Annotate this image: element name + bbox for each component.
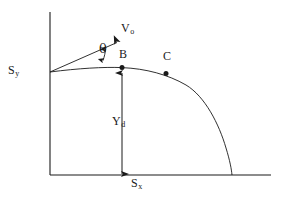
drop-height-label-base: Y <box>112 114 121 128</box>
initial-velocity-label-subscript: o <box>130 27 135 36</box>
point-label-b: B <box>119 48 127 60</box>
initial-velocity-label: Vo <box>121 22 134 34</box>
projectile-diagram: Sy Sx Vo θ B C Yd <box>0 0 284 200</box>
y-axis-label-base: S <box>8 63 15 77</box>
initial-velocity-label-base: V <box>121 21 130 35</box>
trajectory-curve <box>50 67 232 175</box>
y-axis-label-subscript: y <box>15 69 20 78</box>
drop-height-label: Yd <box>112 115 125 127</box>
diagram-canvas <box>0 0 284 200</box>
point-marker-b <box>120 65 125 70</box>
point-label-c: C <box>163 50 171 62</box>
y-axis-label: Sy <box>8 64 19 76</box>
x-axis-label-subscript: x <box>138 182 143 191</box>
x-axis-label: Sx <box>131 177 142 189</box>
angle-theta-label: θ <box>99 42 107 55</box>
drop-height-label-subscript: d <box>121 120 126 129</box>
point-marker-c <box>164 71 169 76</box>
x-axis-label-base: S <box>131 176 138 190</box>
